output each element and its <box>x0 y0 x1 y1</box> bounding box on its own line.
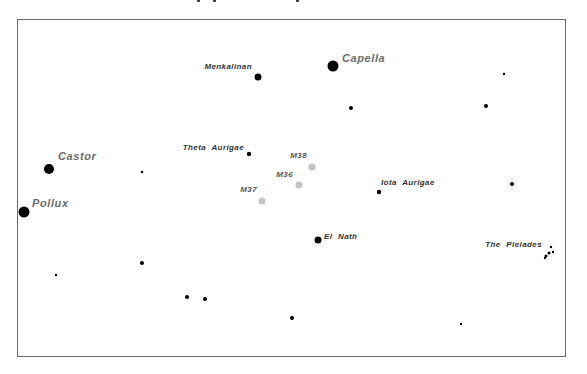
star-marker <box>510 182 514 186</box>
castor-label: Castor <box>58 150 97 162</box>
theta-aurigae-label: Theta Aurigae <box>183 143 244 152</box>
star-marker <box>460 323 462 325</box>
star-marker <box>484 104 488 108</box>
theta-aurigae-marker <box>247 152 251 156</box>
iota-aurigae-marker <box>377 190 381 194</box>
pollux-marker <box>19 207 30 218</box>
star-chart: CapellaMenkalinanCastorPolluxTheta Aurig… <box>0 0 587 374</box>
star-marker <box>349 106 353 110</box>
star-marker <box>503 73 505 75</box>
star-marker <box>55 274 57 276</box>
pleiades-star-marker <box>544 257 546 259</box>
el-nath-label: El Nath <box>324 232 357 241</box>
m36-label: M36 <box>276 170 293 179</box>
pollux-label: Pollux <box>32 197 69 209</box>
castor-marker <box>44 164 54 174</box>
m38-marker <box>309 164 316 171</box>
m37-label: M37 <box>240 185 257 194</box>
m37-marker <box>259 198 266 205</box>
pleiades-star-marker <box>548 252 551 255</box>
m36-marker <box>296 182 303 189</box>
el-nath-marker <box>315 237 322 244</box>
menkalinan-marker <box>255 74 262 81</box>
m38-label: M38 <box>290 151 307 160</box>
star-marker <box>290 316 294 320</box>
star-marker <box>141 171 143 173</box>
capella-label: Capella <box>342 52 385 64</box>
pleiades-star-marker <box>550 246 552 248</box>
capella-marker <box>328 61 339 72</box>
pleiades-star-marker <box>552 251 554 253</box>
menkalinan-label: Menkalinan <box>204 62 252 71</box>
star-marker <box>203 297 207 301</box>
iota-aurigae-label: Iota Aurigae <box>381 178 435 187</box>
star-marker <box>140 261 144 265</box>
star-marker <box>185 295 189 299</box>
the-pleiades-label: The Pleiades <box>485 240 542 249</box>
